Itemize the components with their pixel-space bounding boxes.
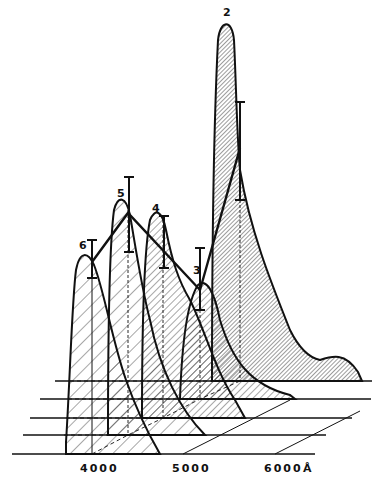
curve-label-4: 4 <box>152 202 160 215</box>
curve-label-6: 6 <box>79 239 87 252</box>
spectrum-curve-2 <box>212 24 362 381</box>
waterfall-spectra-figure: 2 3 4 5 6 4000 5000 6000 Å <box>0 0 386 482</box>
curve-label-3: 3 <box>193 264 201 277</box>
tick-label-4000: 4000 <box>80 462 119 475</box>
tick-label-6000: 6000 <box>264 462 303 475</box>
unit-label-angstrom: Å <box>303 462 314 475</box>
wavelength-axis: 4000 5000 6000 Å <box>80 462 314 475</box>
curve-label-5: 5 <box>117 187 125 200</box>
curve-label-2: 2 <box>223 6 231 19</box>
tick-label-5000: 5000 <box>172 462 211 475</box>
